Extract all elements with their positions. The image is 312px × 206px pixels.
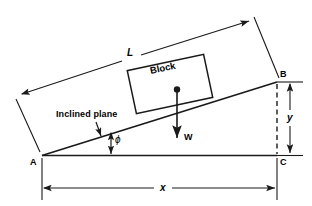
extension-line-A [16, 99, 40, 152]
label-vertex-C: C [280, 158, 287, 167]
label-inclined-plane: Inclined plane [56, 110, 117, 119]
label-length-L: L [127, 48, 133, 58]
label-base-x: x [160, 183, 166, 193]
label-vertex-A: A [30, 158, 37, 167]
inclined-plane-leader [96, 122, 101, 136]
extension-line-B [254, 17, 279, 78]
inclined-plane-arrow [96, 122, 101, 136]
dimension-L-right-segment [141, 21, 249, 55]
label-angle-phi: ϕ [115, 135, 121, 145]
label-height-y: y [287, 113, 293, 123]
label-weight-W: W [184, 133, 193, 142]
dimension-L-left-segment [22, 61, 122, 94]
diagram-canvas [0, 0, 312, 206]
dimension-x-group [42, 158, 277, 200]
inclined-plane-diagram: L Block Inclined plane ϕ W A B C y x [0, 0, 312, 206]
label-vertex-B: B [280, 70, 287, 79]
